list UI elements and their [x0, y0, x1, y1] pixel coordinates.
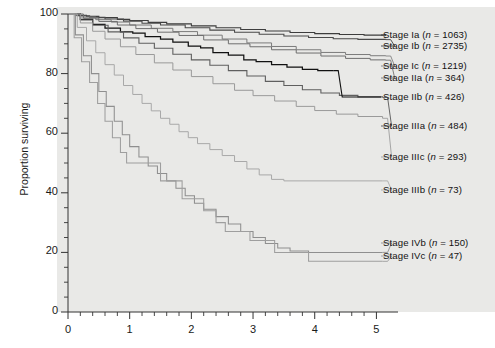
chart-figure: Proportion surviving 020406080100 012345…	[0, 0, 495, 348]
y-tick-label: 40	[28, 185, 58, 197]
axis-ticks-group	[61, 14, 376, 319]
survival-curve-stage-ivb	[68, 14, 383, 252]
series-label-stage-iia: Stage IIa (n = 364)	[383, 72, 465, 83]
series-label-stage-ivb: Stage IVb (n = 150)	[383, 237, 468, 248]
x-tick-label: 4	[305, 323, 325, 335]
y-tick-label: 60	[28, 125, 58, 137]
y-tick-label: 0	[28, 304, 58, 316]
x-tick-label: 3	[243, 323, 263, 335]
x-tick-label: 1	[120, 323, 140, 335]
series-label-stage-iiia: Stage IIIa (n = 484)	[383, 120, 467, 131]
survival-curve-stage-ic	[68, 14, 386, 56]
series-label-stage-ib: Stage Ib (n = 2735)	[383, 40, 467, 51]
survival-curves-group	[68, 14, 386, 261]
survival-plot-svg	[0, 0, 495, 348]
series-label-stage-iiic: Stage IIIc (n = 293)	[383, 151, 467, 162]
survival-curve-stage-iib	[68, 14, 333, 71]
x-tick-label: 2	[181, 323, 201, 335]
series-label-stage-iiib: Stage IIIb (n = 73)	[383, 184, 462, 195]
survival-curve-stage-ivc	[68, 14, 383, 261]
series-label-stage-ia: Stage Ia (n = 1063)	[383, 29, 467, 40]
y-tick-label: 80	[28, 66, 58, 78]
series-label-stage-iib: Stage IIb (n = 426)	[383, 91, 465, 102]
x-tick-label: 5	[366, 323, 386, 335]
y-tick-label: 20	[28, 244, 58, 256]
x-tick-label: 0	[58, 323, 78, 335]
y-tick-label: 100	[28, 6, 58, 18]
leader-line-stage-iib	[333, 71, 381, 97]
series-label-stage-ic: Stage Ic (n = 1219)	[383, 60, 467, 71]
series-label-stage-ivc: Stage IVc (n = 47)	[383, 250, 462, 261]
